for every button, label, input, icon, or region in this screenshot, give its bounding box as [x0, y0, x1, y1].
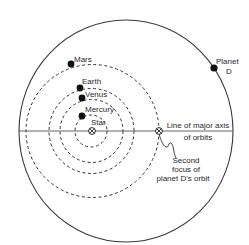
planet-d-label-line1: Planet	[216, 57, 239, 66]
orbit-diagram: Star Mars Earth Venus Mercury Planet D L…	[0, 0, 249, 245]
second-focus-icon	[156, 128, 163, 135]
axis-label-line2: of orbits	[184, 133, 212, 142]
mars-label: Mars	[74, 55, 92, 64]
mercury-label: Mercury	[85, 105, 114, 114]
axis-label-line1: Line of major axis	[167, 121, 230, 130]
second-focus-label-line1: Second	[172, 156, 199, 165]
planet-d-label-line2: D	[226, 67, 232, 76]
star-label: Star	[91, 118, 106, 127]
venus-label: Venus	[85, 90, 107, 99]
second-focus-label-line3: planet D's orbit	[156, 174, 210, 183]
earth-label: Earth	[82, 77, 101, 86]
second-focus-label-line2: focus of	[172, 165, 201, 174]
second-focus-leader	[159, 134, 176, 158]
star-icon	[89, 128, 96, 135]
